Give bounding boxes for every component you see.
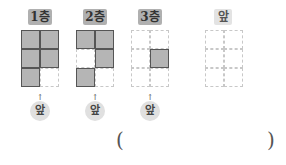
floor-1-label: 1층 [28, 9, 52, 25]
cell [150, 68, 169, 87]
cell[interactable] [224, 30, 243, 49]
cell [131, 49, 150, 68]
cell [21, 30, 40, 49]
front-marker-2: 앞 [85, 101, 105, 121]
answer-blank[interactable] [128, 128, 263, 152]
cell[interactable] [224, 68, 243, 87]
floor-3-label: 3층 [138, 9, 162, 25]
cell [150, 30, 169, 49]
cell [21, 68, 40, 87]
answer-view-label: 앞 [214, 9, 232, 25]
cell [21, 49, 40, 68]
cell [95, 30, 114, 49]
front-marker-3: 앞 [140, 101, 160, 121]
cell [76, 30, 95, 49]
floor-2-label: 2층 [83, 9, 107, 25]
cell[interactable] [205, 30, 224, 49]
cell [95, 49, 114, 68]
floor-2-grid [76, 30, 114, 87]
cell [40, 30, 59, 49]
floor-3-grid [131, 30, 169, 87]
floor-1-grid [21, 30, 59, 87]
cell[interactable] [205, 68, 224, 87]
answer-open-paren: ( [116, 128, 124, 152]
answer-close-paren: ) [267, 128, 275, 152]
cell [131, 68, 150, 87]
cell [40, 49, 59, 68]
cell [150, 49, 169, 68]
answer-view-grid[interactable] [205, 30, 243, 87]
cell [76, 68, 95, 87]
cell [131, 30, 150, 49]
cell [95, 68, 114, 87]
front-marker-1: 앞 [30, 101, 50, 121]
cell[interactable] [224, 49, 243, 68]
cell[interactable] [205, 49, 224, 68]
cell [76, 49, 95, 68]
cell [40, 68, 59, 87]
